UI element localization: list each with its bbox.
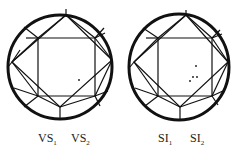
- inclusion-dot: [192, 76, 194, 78]
- label-vs2: VS2: [71, 131, 90, 147]
- label-si1: SI1: [158, 131, 172, 147]
- diamond-left: [8, 9, 112, 119]
- label-vs1: VS1: [38, 131, 57, 147]
- inclusion-dot: [78, 79, 80, 81]
- inclusion-dot: [195, 65, 197, 67]
- inclusion-dot: [189, 80, 191, 82]
- inclusion-dot: [196, 76, 198, 78]
- label-si2: SI2: [190, 131, 204, 147]
- diamond-right: [129, 10, 229, 120]
